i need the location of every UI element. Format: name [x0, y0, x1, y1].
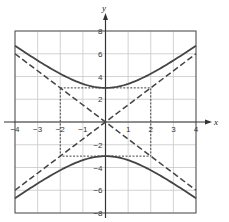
- y-axis-label: y: [101, 3, 106, 13]
- x-tick-label: 1: [126, 125, 131, 134]
- x-tick-label: 2: [149, 125, 154, 134]
- x-tick-label: −2: [56, 125, 66, 134]
- y-tick-label: −2: [93, 141, 103, 150]
- x-tick-label: 4: [194, 125, 199, 134]
- y-tick-label: −4: [93, 164, 103, 173]
- x-axis-arrow-icon: [205, 120, 212, 125]
- x-tick-label: −3: [33, 125, 43, 134]
- x-tick-label: −1: [78, 125, 88, 134]
- y-tick-label: 8: [98, 27, 103, 36]
- y-axis-arrow-icon: [103, 13, 108, 20]
- hyperbola-chart: −4−3−2−11234−8−6−4−22468 x y: [0, 0, 229, 222]
- y-tick-label: −6: [93, 186, 103, 195]
- y-tick-label: 2: [98, 95, 103, 104]
- y-tick-label: 6: [98, 50, 103, 59]
- y-tick-label: 4: [98, 73, 103, 82]
- y-tick-label: −8: [93, 209, 103, 218]
- x-tick-label: −4: [10, 125, 20, 134]
- x-axis-label: x: [213, 117, 218, 127]
- x-tick-label: 3: [171, 125, 176, 134]
